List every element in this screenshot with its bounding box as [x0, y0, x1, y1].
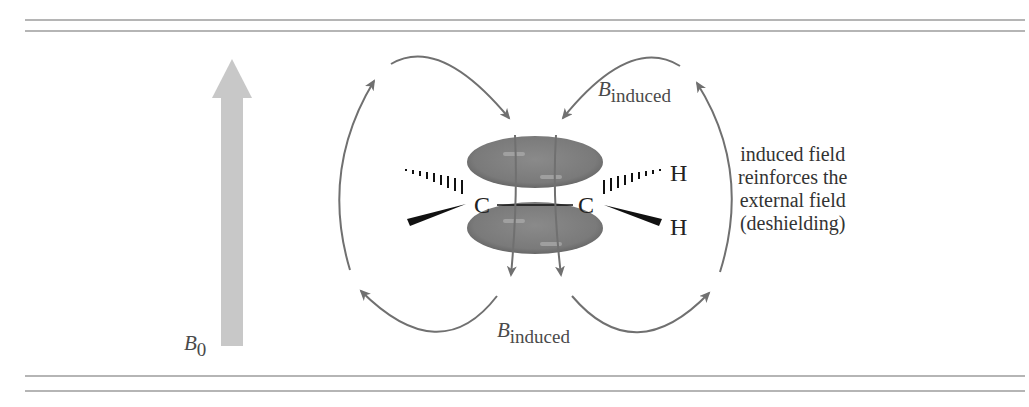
caption-line: (deshielding)	[738, 212, 847, 235]
hashed-bond-left	[406, 169, 462, 194]
external-field-label: B0	[184, 333, 206, 354]
pi-lobe-top	[467, 136, 603, 188]
induced-field-label-top: Binduced	[598, 79, 671, 100]
external-field-symbol: B	[184, 331, 197, 355]
induced-field-bottom-subscript: induced	[510, 326, 570, 347]
hydrogen-bottom-right-label: H	[670, 215, 687, 239]
bottom-rule-lines	[25, 376, 1025, 391]
induced-field-top-subscript: induced	[611, 85, 671, 106]
external-field-subscript: 0	[197, 339, 207, 360]
caption-line: induced field	[738, 143, 847, 166]
carbon-left-label: C	[474, 193, 490, 217]
caption-line: reinforces the	[738, 166, 847, 189]
hydrogen-top-right-label: H	[670, 161, 687, 185]
external-field-arrow	[212, 59, 252, 346]
caption-line: external field	[738, 189, 847, 212]
induced-field-label-bottom: Binduced	[497, 320, 570, 341]
induced-field-bottom-symbol: B	[497, 318, 510, 342]
induced-field-top-symbol: B	[598, 77, 611, 101]
carbon-right-label: C	[578, 193, 594, 217]
wedge-bond-left	[407, 204, 466, 226]
deshielding-caption: induced field reinforces the external fi…	[738, 143, 847, 235]
hashed-bond-right	[604, 169, 660, 194]
top-rule-lines	[25, 20, 1025, 31]
wedge-bond-right	[604, 205, 662, 226]
